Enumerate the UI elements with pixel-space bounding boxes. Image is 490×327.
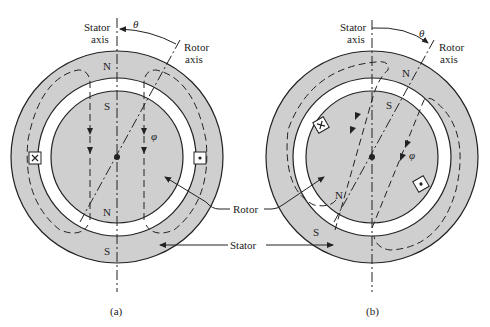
stator-axis-label-a2: axis xyxy=(91,33,109,45)
rotor-axis-label-a2: axis xyxy=(185,53,203,65)
theta-arc-a xyxy=(120,29,176,44)
stator-axis-label-a: Stator xyxy=(84,21,111,33)
shaft-center-b xyxy=(369,154,375,160)
theta-label-b: θ xyxy=(419,27,425,39)
caption-b: (b) xyxy=(366,305,379,318)
rotor-axis-label-b: Rotor xyxy=(439,41,464,53)
phi-label-b: φ xyxy=(409,149,415,161)
conductor-cross-a xyxy=(29,152,41,164)
stator-pole-top-b: N xyxy=(402,67,410,79)
stator-axis-label-b: Stator xyxy=(340,21,367,33)
rotor-pole-bottom-a: N xyxy=(103,206,111,218)
rotor-axis-label-b2: axis xyxy=(440,53,458,65)
stator-callout-label: Stator xyxy=(230,239,257,251)
theta-label-a: θ xyxy=(133,18,139,30)
conductor-dot-a xyxy=(194,152,206,164)
stator-pole-bottom-a: S xyxy=(104,245,110,257)
rotor-axis-label-a: Rotor xyxy=(184,41,209,53)
rotor-pole-top-b: S xyxy=(386,99,392,111)
phi-label-a: φ xyxy=(151,130,157,142)
stator-axis-label-b2: axis xyxy=(347,33,365,45)
caption-a: (a) xyxy=(110,305,123,318)
rotor-callout-label: Rotor xyxy=(233,203,258,215)
stator-pole-bottom-b: S xyxy=(313,226,319,238)
shaft-center-a xyxy=(114,154,120,160)
panel-a: Stator axis Rotor axis θ φ N S N S (a) xyxy=(11,18,223,318)
rotor-pole-top-a: S xyxy=(104,100,110,112)
rotor-pole-bottom-b: N xyxy=(335,189,343,201)
stator-pole-top-a: N xyxy=(103,60,111,72)
panel-b: Stator axis Rotor axis θ φ N S N S (b) xyxy=(266,20,478,318)
machine-diagram: Stator axis Rotor axis θ φ N S N S (a) xyxy=(0,0,490,327)
